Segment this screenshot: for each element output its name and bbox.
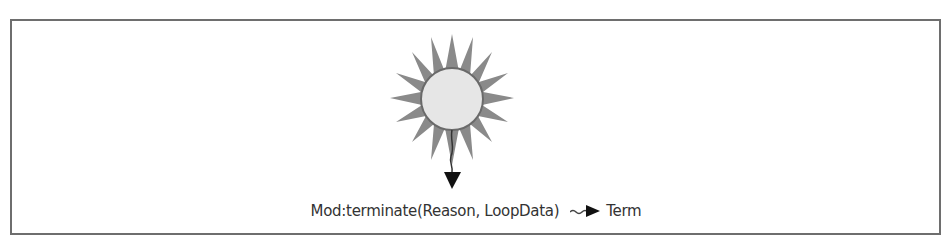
state-circle <box>421 68 483 130</box>
arrow-down-icon <box>444 172 461 189</box>
transition-label: Mod:terminate(Reason, LoopData) Term <box>0 201 952 220</box>
callback-text: Mod:terminate(Reason, LoopData) <box>311 202 560 220</box>
arrow-right-icon <box>570 204 600 218</box>
result-text: Term <box>606 202 641 220</box>
